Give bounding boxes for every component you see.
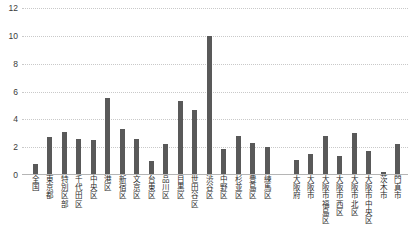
y-tick-label: 4 xyxy=(13,115,18,124)
x-tick-label: 品川区 xyxy=(160,176,171,201)
y-tick-label: 2 xyxy=(13,143,18,152)
x-tick-label: 豊島区 xyxy=(247,176,258,201)
x-tick-label: 中央区 xyxy=(88,176,99,201)
x-tick-label: 港区 xyxy=(102,176,113,192)
y-tick-label: 12 xyxy=(9,4,18,13)
bar-chart: 024681012 全国東京都特別区部千代田区中央区港区新宿区文京区台東区品川区… xyxy=(0,0,410,233)
x-tick-label: 門真市 xyxy=(392,176,403,201)
x-tick-label: 台東区 xyxy=(146,176,157,201)
bars-layer xyxy=(22,8,408,175)
x-tick-label: 大阪市西区 xyxy=(334,176,345,217)
bar xyxy=(134,139,139,175)
bar xyxy=(178,101,183,175)
bar xyxy=(294,160,299,175)
bar xyxy=(120,129,125,175)
x-tick-label: 大阪市北区 xyxy=(349,176,360,217)
bar xyxy=(91,140,96,175)
bar xyxy=(47,137,52,175)
bar xyxy=(395,144,400,175)
x-tick-label: 東京都 xyxy=(44,176,55,201)
plot-area: 024681012 xyxy=(22,8,408,175)
y-tick-label: 8 xyxy=(13,59,18,68)
bar xyxy=(62,132,67,175)
x-tick-label: 新宿区 xyxy=(117,176,128,201)
bar xyxy=(192,110,197,175)
y-tick-label: 0 xyxy=(13,171,18,180)
bar xyxy=(337,156,342,175)
x-tick-label: 大阪府 xyxy=(291,176,302,201)
y-tick-label: 6 xyxy=(13,87,18,96)
x-tick-label: 杉並区 xyxy=(233,176,244,201)
x-tick-label: 特別区部 xyxy=(59,176,70,209)
x-tick-label: 千代田区 xyxy=(73,176,84,209)
x-tick-label: 世田谷区 xyxy=(189,176,200,209)
x-axis-category-labels: 全国東京都特別区部千代田区中央区港区新宿区文京区台東区品川区目黒区世田谷区渋谷区… xyxy=(22,176,408,233)
bar xyxy=(265,147,270,175)
x-tick-label: 文京区 xyxy=(131,176,142,201)
bar xyxy=(76,139,81,175)
x-tick-label: 渋谷区 xyxy=(204,176,215,201)
bar xyxy=(163,144,168,175)
bar xyxy=(149,161,154,175)
x-tick-label: 大阪市福島区 xyxy=(320,176,331,225)
x-tick-label: 大阪市 xyxy=(305,176,316,201)
bar xyxy=(221,149,226,175)
bar xyxy=(207,36,212,175)
bar xyxy=(250,143,255,175)
bar xyxy=(105,98,110,175)
bar xyxy=(323,136,328,175)
y-tick-label: 10 xyxy=(9,32,18,41)
bar xyxy=(236,136,241,175)
bar xyxy=(352,133,357,175)
x-tick-label: 練馬区 xyxy=(262,176,273,201)
x-tick-label: 目黒区 xyxy=(175,176,186,201)
x-tick-label: 大阪市中央区 xyxy=(363,176,374,225)
bar xyxy=(366,151,371,175)
bar xyxy=(308,154,313,175)
x-tick-label: 中野区 xyxy=(218,176,229,201)
x-tick-label: 全国 xyxy=(30,176,41,192)
x-tick-label: 茨木市 xyxy=(378,176,389,201)
